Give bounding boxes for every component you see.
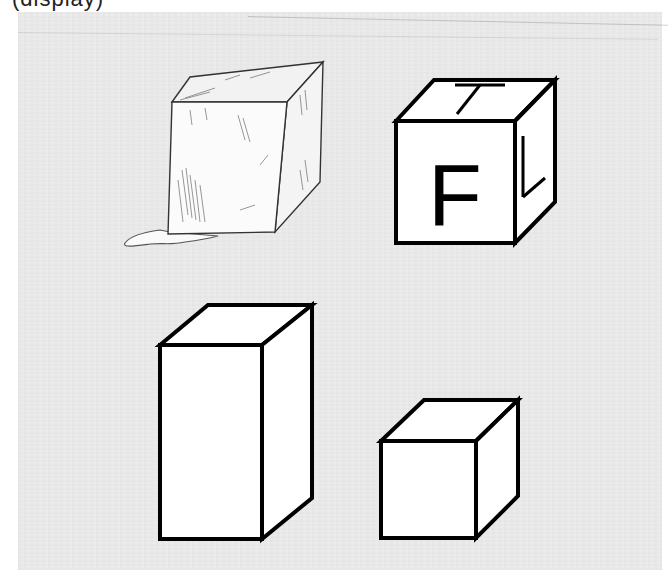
rectangular-prism-figure [160,305,312,539]
figures-canvas: F [0,0,672,587]
ice-cube-figure [125,62,323,246]
small-cube-figure [381,400,518,538]
letter-cube-front-label: F [428,145,482,244]
